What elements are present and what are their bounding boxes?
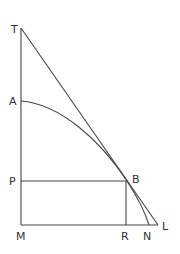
label-A: A — [9, 95, 17, 108]
label-R: R — [121, 230, 129, 243]
label-B: B — [132, 173, 140, 186]
label-M: M — [16, 230, 26, 243]
label-P: P — [9, 175, 16, 188]
label-N: N — [143, 230, 151, 243]
label-L: L — [162, 220, 169, 233]
label-T: T — [10, 23, 18, 36]
geometry-diagram: T A P M B R N L — [0, 0, 180, 254]
tangent-line-TL — [21, 28, 158, 225]
